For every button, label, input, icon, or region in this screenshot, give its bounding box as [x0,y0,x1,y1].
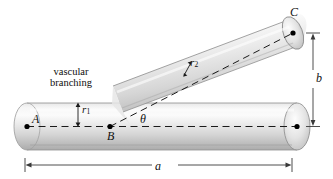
label-radius-r1-subscript: 1 [86,107,90,116]
point-c-dot [290,30,295,35]
label-point-a: A [32,113,39,126]
vessel-illustration [0,0,333,179]
label-point-c: C [290,6,298,19]
label-radius-r2-subscript: 2 [194,60,198,69]
label-dimension-a: a [155,160,161,173]
main-vessel-cylinder [14,103,310,150]
label-point-b: B [107,130,114,143]
point-right-end-dot [294,124,299,129]
caption-line-1: vascular [33,66,109,77]
label-radius-r2: r2 [190,57,198,69]
label-radius-r1: r1 [82,104,90,116]
label-dimension-b: b [316,72,322,85]
point-a-dot [24,124,29,129]
caption-vascular-branching: vascular branching [33,66,109,89]
vascular-branching-figure: vascular branching A B C a b r1 r2 θ [0,0,333,179]
caption-line-2: branching [33,77,109,88]
label-angle-theta: θ [140,113,146,126]
